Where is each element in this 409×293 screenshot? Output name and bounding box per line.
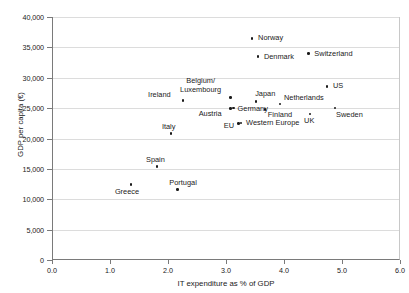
y-axis-tick-label: 0 — [0, 256, 44, 265]
x-axis-tick-label: 2.0 — [151, 266, 185, 275]
data-point-label: Spain — [146, 156, 165, 164]
y-axis-tick-mark — [47, 139, 52, 140]
gridline — [53, 199, 399, 200]
y-axis-tick-label: 5,000 — [0, 226, 44, 235]
data-point-label: UK — [304, 117, 314, 125]
data-point — [229, 107, 232, 110]
gridline — [53, 169, 399, 170]
x-axis-tick-label: 4.0 — [267, 266, 301, 275]
x-axis-tick-mark — [110, 260, 111, 264]
y-axis-tick-mark — [47, 230, 52, 231]
data-point-label: Italy — [162, 123, 176, 131]
gridline — [53, 230, 399, 231]
data-point — [170, 132, 173, 135]
y-axis-title: GDP per capita (€) — [16, 45, 25, 205]
x-axis-tick-label: 6.0 — [383, 266, 409, 275]
data-point-label: Austria — [199, 110, 222, 118]
data-point — [130, 183, 133, 186]
y-axis-tick-mark — [47, 47, 52, 48]
y-axis-tick-mark — [47, 78, 52, 79]
gridline — [53, 108, 399, 109]
data-point — [264, 108, 267, 111]
data-point-label: EU — [224, 122, 234, 130]
y-axis-tick-label: 15,000 — [0, 165, 44, 174]
data-point — [326, 85, 329, 88]
y-axis-tick-mark — [47, 108, 52, 109]
x-axis-title: IT expenditure as % of GDP — [52, 279, 400, 288]
data-point-label: Greece — [115, 188, 139, 196]
data-point-label: Denmark — [264, 53, 294, 61]
x-axis-tick-label: 3.0 — [209, 266, 243, 275]
data-point-label: Belgium/ Luxembourg — [172, 77, 230, 94]
x-axis-tick-mark — [226, 260, 227, 264]
y-axis-tick-mark — [47, 169, 52, 170]
data-point — [176, 188, 179, 191]
x-axis-tick-label: 0.0 — [35, 266, 69, 275]
y-axis-tick-label: 40,000 — [0, 13, 44, 22]
data-point-label: Netherlands — [284, 94, 324, 102]
x-axis-tick-mark — [52, 260, 53, 264]
x-axis-tick-label: 1.0 — [93, 266, 127, 275]
data-point-label: Ireland — [148, 91, 171, 99]
data-point — [307, 52, 310, 55]
y-axis-tick-label: 20,000 — [0, 135, 44, 144]
gridline — [53, 17, 399, 18]
data-point-label: Portugal — [169, 179, 197, 187]
y-axis-tick-label: 30,000 — [0, 74, 44, 83]
data-point-label: Japan — [255, 90, 275, 98]
x-axis-tick-label: 5.0 — [325, 266, 359, 275]
x-axis-tick-mark — [342, 260, 343, 264]
data-point — [229, 96, 232, 99]
x-axis-tick-mark — [168, 260, 169, 264]
y-axis-tick-mark — [47, 199, 52, 200]
y-axis-tick-mark — [47, 17, 52, 18]
x-axis-tick-mark — [284, 260, 285, 264]
data-point-label: Sweden — [336, 111, 363, 119]
data-point-label: US — [333, 82, 343, 90]
scatter-chart: GDP per capita (€) 05,00010,00015,00020,… — [0, 0, 409, 293]
y-axis-tick-label: 10,000 — [0, 195, 44, 204]
gridline — [53, 139, 399, 140]
data-point-label: Norway — [258, 34, 283, 42]
y-axis-tick-label: 25,000 — [0, 104, 44, 113]
y-axis-tick-label: 35,000 — [0, 43, 44, 52]
data-point-label: Switzerland — [314, 50, 352, 58]
x-axis-tick-mark — [400, 260, 401, 264]
data-point-label: Western Europe — [246, 119, 299, 127]
